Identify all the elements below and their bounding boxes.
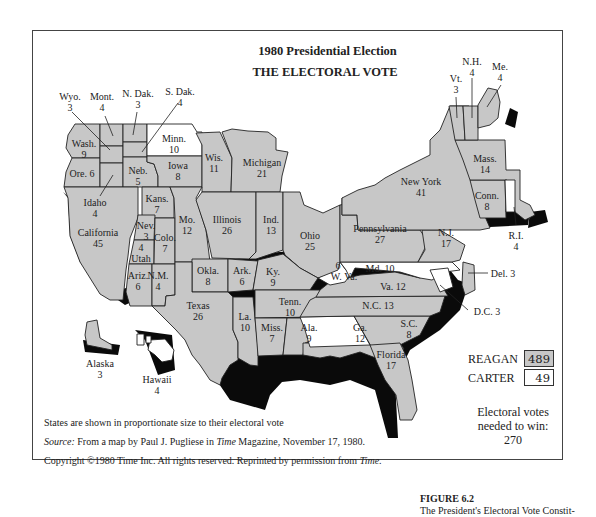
label-wash: Wash.9 <box>72 138 96 160</box>
state-north-dakota <box>123 124 147 142</box>
label-alaska: Alaska3 <box>86 358 114 380</box>
needed-line2: needed to win: <box>463 419 563 433</box>
label-iowa: Iowa8 <box>168 160 188 182</box>
label-nev: Nev.3 <box>137 220 156 242</box>
state-delaware <box>462 262 475 295</box>
label-texas: Texas26 <box>186 300 209 322</box>
state-alaska <box>85 320 112 350</box>
needed-to-win: Electoral votes needed to win: 270 <box>463 405 563 447</box>
label-ri: R.I.4 <box>509 230 524 252</box>
legend-reagan-votes: 489 <box>524 350 554 367</box>
label-neb: Neb.5 <box>128 165 147 187</box>
label-pennsylvania: Pennsylvania27 <box>353 223 406 245</box>
label-mass: Mass.14 <box>473 153 497 175</box>
state-montana <box>100 124 123 146</box>
label-ndak: N. Dak.3 <box>122 88 153 110</box>
source-text-b: Magazine, November 17, 1980. <box>236 436 365 447</box>
label-ariz: Ariz.6 <box>128 270 148 292</box>
label-ala: Ala.9 <box>301 322 318 344</box>
figure-caption-text: The President's Electoral Vote Constit- <box>420 505 575 517</box>
label-idaho: Idaho4 <box>84 197 107 219</box>
legend-carter-label: CARTER <box>468 371 515 386</box>
label-minn: Minn.10 <box>162 133 186 155</box>
label-utah: 4Utah <box>131 242 150 264</box>
state-hawaii-islet-2 <box>146 336 151 343</box>
label-va: Va. 12 <box>380 281 406 292</box>
needed-value: 270 <box>463 433 563 447</box>
figure-number: FIGURE 6.2 <box>420 493 575 505</box>
source-time: Time <box>216 436 235 447</box>
label-sc: S.C.8 <box>400 318 417 340</box>
legend-reagan-label: REAGAN <box>468 352 518 367</box>
label-dc: D.C. 3 <box>474 306 500 317</box>
label-ark: Ark.6 <box>233 265 251 287</box>
label-ohio: Ohio25 <box>300 230 320 252</box>
label-mo: Mo.12 <box>179 214 195 236</box>
copyright-note: Copyright ©1980 Time Inc. All rights res… <box>44 455 382 466</box>
label-tenn: Tenn.10 <box>279 296 301 318</box>
label-nj: N.J.17 <box>438 227 454 249</box>
state-maine <box>478 88 500 128</box>
label-ind: Ind.13 <box>263 214 279 236</box>
label-hawaii: Hawaii4 <box>143 374 172 396</box>
source-text-a: From a map by Paul J. Pugliese in <box>75 436 217 447</box>
legend-carter-votes: 49 <box>524 369 554 386</box>
proportion-note: States are shown in proportionate size t… <box>44 417 284 428</box>
state-new-hampshire <box>463 106 478 140</box>
label-kans: Kans.7 <box>145 193 168 215</box>
label-nh: N.H.4 <box>462 56 481 78</box>
label-la: La.10 <box>238 311 251 333</box>
source-note: Source: From a map by Paul J. Pugliese i… <box>44 436 365 447</box>
label-new-york: New York41 <box>401 176 442 198</box>
copyright-end: . <box>379 455 382 466</box>
needed-line1: Electoral votes <box>463 405 563 419</box>
label-ga: Ga.12 <box>353 322 367 344</box>
label-wis: Wis.11 <box>205 152 223 174</box>
state-rhode-island <box>505 180 515 212</box>
label-del: Del. 3 <box>491 268 515 279</box>
label-nc: N.C. 13 <box>362 300 393 311</box>
label-ky: Ky.9 <box>266 266 280 288</box>
label-florida: Florida17 <box>377 349 406 371</box>
label-okla: Okla.8 <box>197 265 219 287</box>
label-wyo: Wyo.3 <box>59 91 80 113</box>
label-wva: W. Va. <box>331 271 357 282</box>
copyright-time: Time <box>360 455 379 466</box>
label-miss: Miss.7 <box>261 322 283 344</box>
label-colo: Colo.7 <box>154 232 176 254</box>
copyright-text: Copyright ©1980 Time Inc. All rights res… <box>44 455 360 466</box>
label-me: Me.4 <box>492 61 508 83</box>
label-ore: Ore. 6 <box>70 168 95 179</box>
label-wva-votes: 6 <box>336 260 341 271</box>
label-michigan: Michigan21 <box>243 157 281 179</box>
label-nm: N.M.4 <box>147 270 168 292</box>
label-sdak: S. Dak.4 <box>165 86 195 108</box>
label-california: California45 <box>78 227 119 249</box>
source-label: Source: <box>44 436 75 447</box>
label-conn: Conn.8 <box>475 190 499 212</box>
state-idaho-north <box>100 163 123 187</box>
label-mont: Mont.4 <box>90 91 114 113</box>
state-wyoming <box>100 146 123 163</box>
label-md: Md. 10 <box>366 263 395 274</box>
label-illinois: Illinois26 <box>213 214 241 236</box>
figure-caption: FIGURE 6.2 The President's Electoral Vot… <box>420 493 575 517</box>
label-vt: Vt.3 <box>450 73 463 95</box>
state-hawaii-islet <box>137 334 144 345</box>
